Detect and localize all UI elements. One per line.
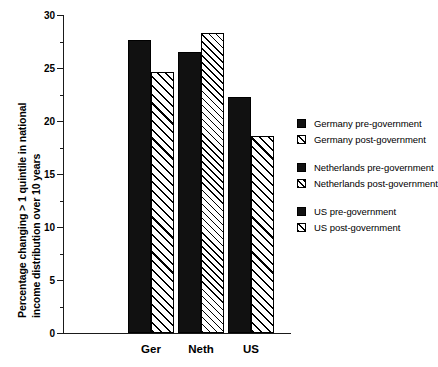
y-tick-mark	[57, 68, 63, 69]
x-axis-label-us: US	[243, 343, 259, 355]
legend-group: Germany pre-governmentGermany post-gover…	[297, 116, 437, 147]
y-tick-mark	[57, 227, 63, 228]
legend-swatch-icon	[297, 163, 306, 172]
x-axis-label-neth: Neth	[188, 343, 214, 355]
bar-us-pre-government	[228, 97, 251, 333]
legend-item: US post-government	[297, 220, 437, 235]
legend-label: US post-government	[314, 222, 400, 233]
legend-label: Netherlands pre-government	[314, 162, 434, 173]
legend-item: Netherlands post-government	[297, 176, 437, 191]
y-minor-tick-mark	[60, 254, 64, 255]
y-tick-mark	[57, 15, 63, 16]
legend-swatch-icon	[297, 119, 306, 128]
legend-item: Germany post-government	[297, 132, 437, 147]
y-axis-title: Percentage changing > 1 quintile in nati…	[2, 0, 44, 340]
legend-swatch-icon	[297, 207, 306, 216]
y-axis-line	[63, 15, 64, 333]
y-tick-label: 25	[44, 63, 55, 74]
x-axis-line	[63, 333, 291, 334]
legend-label: Germany pre-government	[314, 118, 422, 129]
y-tick-label: 20	[44, 116, 55, 127]
x-axis-label-ger: Ger	[141, 343, 161, 355]
legend-swatch-icon	[297, 179, 306, 188]
y-axis-title-line-2: income distribution over 10 years	[30, 154, 43, 318]
legend-item: Germany pre-government	[297, 116, 437, 131]
bar-neth-pre-government	[178, 52, 201, 333]
y-minor-tick-mark	[60, 95, 64, 96]
y-tick-label: 0	[49, 328, 55, 339]
y-tick-label: 30	[44, 10, 55, 21]
legend-swatch-icon	[297, 223, 306, 232]
bar-neth-post-government	[201, 33, 224, 333]
bar-chart: Percentage changing > 1 quintile in nati…	[0, 0, 438, 367]
legend-label: Germany post-government	[314, 134, 426, 145]
legend-swatch-icon	[297, 135, 306, 144]
chart-legend: Germany pre-governmentGermany post-gover…	[297, 116, 437, 248]
plot-area: 051015202530 GerNethUS	[63, 15, 291, 333]
y-minor-tick-mark	[60, 201, 64, 202]
legend-group: Netherlands pre-governmentNetherlands po…	[297, 160, 437, 191]
y-tick-mark	[57, 121, 63, 122]
y-minor-tick-mark	[60, 307, 64, 308]
y-minor-tick-mark	[60, 42, 64, 43]
y-tick-label: 5	[49, 275, 55, 286]
legend-label: Netherlands post-government	[314, 178, 438, 189]
y-minor-tick-mark	[60, 148, 64, 149]
y-axis-title-line-1: Percentage changing > 1 quintile in nati…	[16, 103, 29, 318]
y-tick-label: 15	[44, 169, 55, 180]
legend-group: US pre-governmentUS post-government	[297, 204, 437, 235]
legend-item: Netherlands pre-government	[297, 160, 437, 175]
bar-ger-pre-government	[128, 40, 151, 333]
bar-us-post-government	[251, 136, 274, 333]
bar-ger-post-government	[151, 72, 174, 333]
y-tick-mark	[57, 280, 63, 281]
legend-label: US pre-government	[314, 206, 396, 217]
y-tick-mark	[57, 174, 63, 175]
legend-item: US pre-government	[297, 204, 437, 219]
y-tick-label: 10	[44, 222, 55, 233]
y-tick-mark	[57, 333, 63, 334]
